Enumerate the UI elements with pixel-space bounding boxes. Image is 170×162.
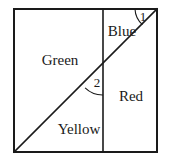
angle-label-2: 2 (94, 75, 101, 90)
figure-canvas: Green Blue Red Yellow 1 2 (0, 0, 170, 162)
angle-label-1: 1 (140, 9, 147, 24)
region-label-yellow: Yellow (58, 121, 101, 137)
geometry-figure: Green Blue Red Yellow 1 2 (0, 0, 170, 162)
region-label-blue: Blue (108, 23, 137, 39)
region-label-green: Green (42, 52, 79, 68)
region-label-red: Red (119, 88, 144, 104)
